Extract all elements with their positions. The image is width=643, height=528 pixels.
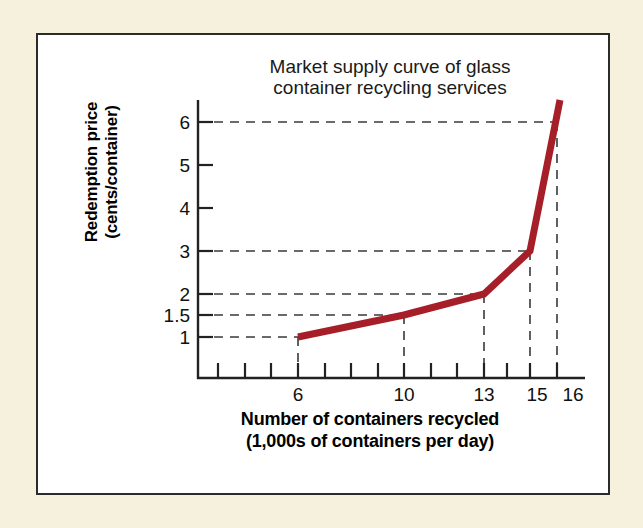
vertical-guide-lines <box>298 122 557 378</box>
chart-figure: Market supply curve of glasscontainer re… <box>0 0 643 528</box>
horizontal-guide-lines <box>198 122 557 337</box>
y-axis-ticks <box>198 122 213 337</box>
supply-curve-line <box>298 100 560 337</box>
figure-page: Market supply curve of glasscontainer re… <box>0 0 643 528</box>
plot-area <box>0 0 643 528</box>
x-axis-ticks <box>218 363 557 378</box>
